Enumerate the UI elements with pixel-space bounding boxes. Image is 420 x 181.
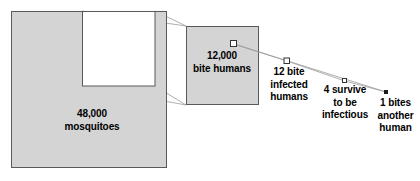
marker-infected-humans [231,41,237,47]
square-mosquitoes-inner-cutout [83,12,156,87]
label-bites-another-human: 1 bites another human [371,97,420,135]
label-bite-humans: 12,000 bite humans [186,50,258,75]
marker-node-12 [284,58,290,64]
marker-node-1 [385,91,388,94]
label-mosquitoes: 48,000 mosquitoes [22,108,162,133]
transmission-funnel-figure: 48,000 mosquitoes 12,000 bite humans 12 … [0,0,420,181]
label-survive-infectious: 4 survive to be infectious [312,84,378,122]
label-infected-humans: 12 bite infected humans [261,66,317,104]
marker-node-4 [343,79,347,83]
